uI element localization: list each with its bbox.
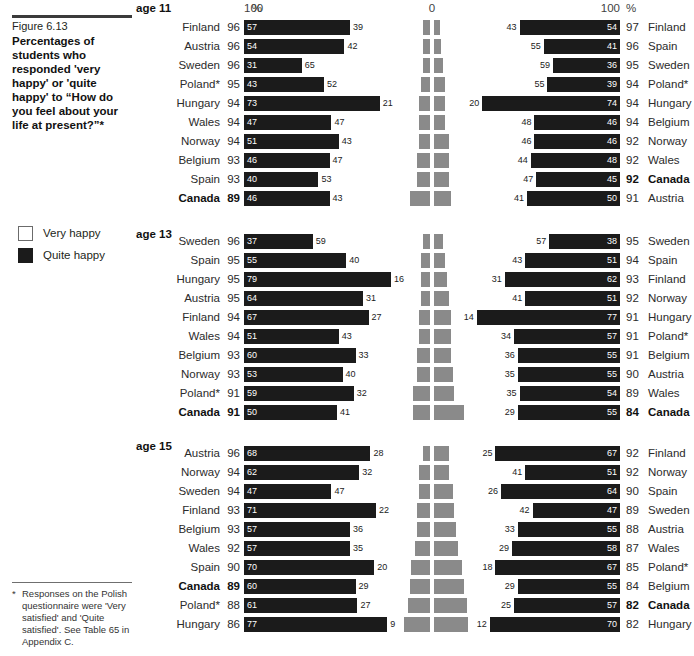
row-total-left: 91 bbox=[222, 403, 240, 422]
bar-segment-quite-happy: 51 bbox=[525, 253, 620, 268]
row-country-label-left: Belgium bbox=[136, 346, 220, 365]
bar-track-left: 5442 bbox=[244, 39, 430, 54]
row-total-left: 89 bbox=[222, 189, 240, 208]
bar-track-right: 5536 bbox=[434, 348, 620, 363]
row-total-right: 82 bbox=[626, 615, 644, 634]
bar-segment-quite-happy: 51 bbox=[244, 134, 339, 149]
row-total-right: 92 bbox=[626, 151, 644, 170]
bar-value-label: 54 bbox=[607, 387, 617, 400]
bar-track-left: 3759 bbox=[244, 234, 430, 249]
row-country-label-right: Finland bbox=[648, 444, 694, 463]
bar-segment-very-happy: 35 bbox=[350, 541, 415, 556]
bar-track-right: 6725 bbox=[434, 446, 620, 461]
row-total-right: 88 bbox=[626, 520, 644, 539]
bar-value-label: 20 bbox=[377, 561, 387, 574]
bar-value-label: 36 bbox=[505, 349, 515, 362]
bar-value-label: 25 bbox=[501, 599, 511, 612]
chart-row: Norway946232514192Norway bbox=[0, 463, 694, 482]
row-country-label-left: Wales bbox=[136, 327, 220, 346]
bar-segment-quite-happy: 57 bbox=[244, 522, 350, 537]
bar-value-label: 43 bbox=[342, 330, 352, 343]
bar-track-left: 7020 bbox=[244, 560, 430, 575]
bar-segment-quite-happy: 70 bbox=[244, 560, 374, 575]
chart-row: Canada915041552984Canada bbox=[0, 403, 694, 422]
bar-value-label: 73 bbox=[247, 97, 257, 110]
row-total-left: 94 bbox=[222, 308, 240, 327]
bar-segment-quite-happy: 38 bbox=[549, 234, 620, 249]
row-total-left: 89 bbox=[222, 577, 240, 596]
bar-track-right: 6231 bbox=[434, 272, 620, 287]
bar-segment-quite-happy: 64 bbox=[244, 291, 363, 306]
row-country-label-right: Belgium bbox=[648, 113, 694, 132]
bar-segment-quite-happy: 46 bbox=[244, 191, 330, 206]
row-total-left: 92 bbox=[222, 539, 240, 558]
row-country-label-left: Finland bbox=[136, 308, 220, 327]
bar-value-label: 39 bbox=[353, 21, 363, 34]
bar-value-label: 45 bbox=[607, 173, 617, 186]
bar-segment-quite-happy: 57 bbox=[514, 329, 620, 344]
bar-track-right: 5435 bbox=[434, 386, 620, 401]
bar-value-label: 29 bbox=[499, 542, 509, 555]
bar-segment-very-happy: 43 bbox=[339, 134, 419, 149]
bar-value-label: 46 bbox=[607, 135, 617, 148]
row-total-left: 86 bbox=[222, 615, 240, 634]
bar-value-label: 43 bbox=[512, 254, 522, 267]
bar-track-right: 5533 bbox=[434, 522, 620, 537]
row-total-right: 95 bbox=[626, 56, 644, 75]
bar-segment-very-happy: 40 bbox=[343, 367, 417, 382]
chart-row: Sweden944747642690Spain bbox=[0, 482, 694, 501]
bar-value-label: 57 bbox=[247, 21, 257, 34]
row-country-label-right: Wales bbox=[648, 151, 694, 170]
bar-value-label: 55 bbox=[607, 349, 617, 362]
bar-value-label: 47 bbox=[247, 485, 257, 498]
chart-row: Canada896029552984Belgium bbox=[0, 577, 694, 596]
bar-value-label: 43 bbox=[247, 78, 257, 91]
chart-row: Austria966828672592Finland bbox=[0, 444, 694, 463]
bar-segment-quite-happy: 79 bbox=[244, 272, 391, 287]
bar-value-label: 32 bbox=[357, 387, 367, 400]
bar-segment-quite-happy: 59 bbox=[244, 386, 354, 401]
row-country-label-right: Canada bbox=[648, 170, 694, 189]
bar-track-right: 6718 bbox=[434, 560, 620, 575]
bar-segment-quite-happy: 77 bbox=[477, 310, 620, 325]
bar-segment-quite-happy: 55 bbox=[518, 522, 620, 537]
bar-track-left: 5932 bbox=[244, 386, 430, 401]
bar-segment-very-happy: 12 bbox=[468, 617, 490, 632]
row-country-label-right: Spain bbox=[648, 37, 694, 56]
bar-track-right: 3955 bbox=[434, 77, 620, 92]
row-country-label-right: Hungary bbox=[648, 94, 694, 113]
row-country-label-right: Canada bbox=[648, 596, 694, 615]
bar-segment-very-happy: 47 bbox=[330, 153, 417, 168]
bar-segment-quite-happy: 70 bbox=[490, 617, 620, 632]
row-country-label-left: Austria bbox=[136, 37, 220, 56]
chart-row: Finland965739544397Finland bbox=[0, 18, 694, 37]
row-total-left: 94 bbox=[222, 463, 240, 482]
bar-track-right: 4646 bbox=[434, 134, 620, 149]
bar-segment-quite-happy: 41 bbox=[544, 39, 620, 54]
row-total-left: 91 bbox=[222, 384, 240, 403]
bar-segment-very-happy: 25 bbox=[467, 598, 514, 613]
bar-track-right: 5529 bbox=[434, 405, 620, 420]
bar-segment-quite-happy: 55 bbox=[244, 253, 346, 268]
bar-segment-very-happy: 59 bbox=[443, 58, 553, 73]
bar-segment-very-happy: 53 bbox=[318, 172, 417, 187]
bar-value-label: 9 bbox=[390, 618, 395, 631]
bar-value-label: 16 bbox=[394, 273, 404, 286]
bar-track-right: 5829 bbox=[434, 541, 620, 556]
bar-segment-very-happy: 42 bbox=[454, 503, 532, 518]
bar-value-label: 38 bbox=[607, 235, 617, 248]
row-country-label-right: Sweden bbox=[648, 232, 694, 251]
bar-segment-very-happy: 26 bbox=[453, 484, 501, 499]
chart-row: Spain955540514394Spain bbox=[0, 251, 694, 270]
bar-value-label: 44 bbox=[518, 154, 528, 167]
bar-value-label: 31 bbox=[247, 59, 257, 72]
chart-row: Norway935340553590Austria bbox=[0, 365, 694, 384]
bar-value-label: 68 bbox=[247, 447, 257, 460]
bar-track-left: 5736 bbox=[244, 522, 430, 537]
bar-value-label: 41 bbox=[512, 466, 522, 479]
bar-value-label: 50 bbox=[607, 192, 617, 205]
bar-segment-very-happy: 31 bbox=[363, 291, 421, 306]
bar-value-label: 48 bbox=[521, 116, 531, 129]
row-total-right: 94 bbox=[626, 251, 644, 270]
bar-segment-very-happy: 41 bbox=[449, 465, 525, 480]
